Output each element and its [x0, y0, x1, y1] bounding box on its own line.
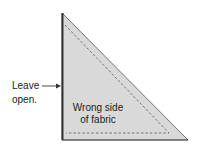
leave-line-2: open.	[12, 94, 39, 106]
wrong-side-label: Wrong side of fabric	[66, 102, 130, 126]
fabric-line-2: of fabric	[66, 114, 130, 126]
leave-line-1: Leave	[12, 80, 39, 92]
leave-open-label: Leave open.	[12, 80, 39, 106]
fabric-line-1: Wrong side	[66, 102, 130, 114]
triangle-diagram	[0, 0, 197, 149]
arrow-head-icon	[56, 84, 61, 89]
